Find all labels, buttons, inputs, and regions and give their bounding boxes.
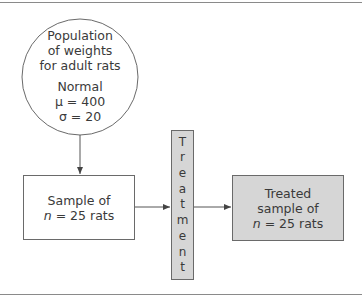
treatment-letter: t [180,261,185,274]
population-label: Population of weights for adult rats Nor… [22,28,138,124]
sample-size: n = 25 rats [44,208,114,223]
treated-sample-box: Treated sample of n = 25 rats [232,175,344,241]
mu-value: μ = 400 [22,94,138,109]
n-value: = 25 rats [52,208,115,223]
population-line3: for adult rats [22,58,138,73]
n-symbol: n [253,216,261,231]
treatment-letter: a [179,183,186,196]
treatment-letter: t [180,198,185,211]
treatment-letter: n [179,246,187,259]
treatment-letter: T [179,136,186,149]
treated-line2: sample of [253,201,323,216]
treated-line1: Treated [253,186,323,201]
sample-line1: Sample of [44,193,114,208]
treatment-letter: e [179,167,186,180]
n-value: = 25 rats [261,216,324,231]
treatment-bar: T r e a t m e n t [171,130,194,280]
sigma-value: σ = 20 [22,109,138,124]
treatment-letter: e [179,230,186,243]
n-symbol: n [44,208,52,223]
sample-box: Sample of n = 25 rats [23,175,135,240]
treatment-letter: m [177,214,189,227]
population-line2: of weights [22,43,138,58]
population-line1: Population [22,28,138,43]
treated-size: n = 25 rats [253,216,323,231]
treatment-letter: r [180,151,185,164]
distribution-label: Normal [22,79,138,94]
